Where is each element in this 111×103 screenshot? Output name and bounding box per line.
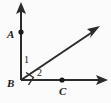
point-a-dot bbox=[18, 29, 23, 34]
geometry-figure: A B C 1 2 bbox=[0, 0, 111, 103]
point-label-a: A bbox=[7, 29, 14, 40]
point-c-dot bbox=[59, 77, 64, 82]
geometry-canvas bbox=[0, 0, 111, 103]
ray-ba bbox=[16, 2, 26, 80]
point-label-c: C bbox=[59, 86, 66, 97]
point-label-b: B bbox=[7, 78, 14, 89]
ray-interior-arrowhead bbox=[87, 26, 100, 38]
angle-label-1: 1 bbox=[24, 55, 29, 65]
ray-interior bbox=[21, 26, 100, 80]
ray-interior-line bbox=[21, 31, 94, 80]
angle-label-2: 2 bbox=[37, 68, 42, 78]
